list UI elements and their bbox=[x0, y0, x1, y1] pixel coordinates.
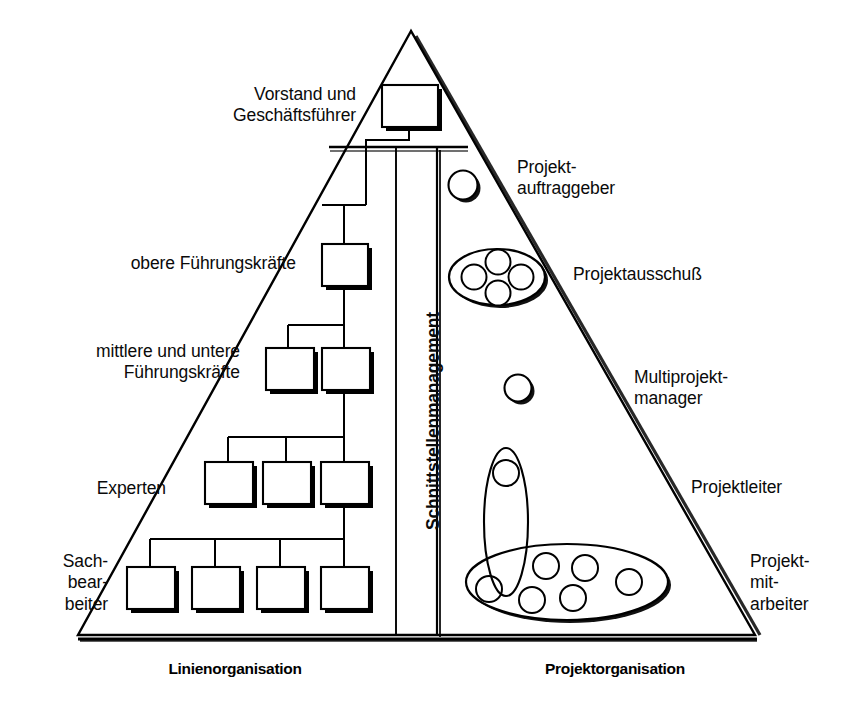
footer-projektorganisation: Projektorganisation bbox=[490, 660, 740, 678]
label-projektleiter: Projektleiter bbox=[691, 477, 842, 498]
org-box-experten-1 bbox=[205, 462, 257, 508]
footer-linienorganisation: Linienorganisation bbox=[110, 660, 360, 678]
label-experten: Experten bbox=[6, 478, 166, 499]
shape-projektausschuss bbox=[449, 249, 548, 308]
org-box-experten-3 bbox=[321, 462, 373, 508]
diagram-canvas: Vorstand und Geschäftsführer obere Führu… bbox=[0, 0, 842, 703]
top-divider bbox=[329, 147, 468, 151]
label-schnittstellenmanagement: Schnittstellenmanagement bbox=[423, 312, 444, 530]
org-box-sachbearbeiter-4 bbox=[321, 567, 373, 613]
org-box-experten-2 bbox=[263, 462, 315, 508]
label-multiprojektmanager: Multiprojekt- manager bbox=[634, 367, 834, 410]
shape-projektmitarbeiter bbox=[466, 544, 671, 623]
org-box-mittlere-1 bbox=[266, 348, 318, 394]
label-projektauftraggeber: Projekt- auftraggeber bbox=[517, 157, 757, 200]
label-obere-fuehrungskraefte: obere Führungskräfte bbox=[30, 253, 296, 274]
shape-projektauftraggeber bbox=[449, 171, 481, 203]
label-mittlere-untere-fuehrungskraefte: mittlere und untere Führungskräfte bbox=[22, 341, 240, 384]
org-box-sachbearbeiter-3 bbox=[257, 567, 309, 613]
label-projektmitarbeiter: Projekt- mit- arbeiter bbox=[750, 551, 842, 615]
label-sachbearbeiter: Sach- bear- beiter bbox=[0, 551, 108, 615]
label-projektausschuss: Projektausschuß bbox=[573, 264, 823, 285]
org-box-obere-1 bbox=[322, 244, 372, 290]
org-box-sachbearbeiter-1 bbox=[127, 567, 179, 613]
shape-multiprojektmanager bbox=[505, 375, 535, 405]
org-box-sachbearbeiter-2 bbox=[192, 567, 244, 613]
org-box-vorstand bbox=[382, 85, 442, 131]
org-box-mittlere-2 bbox=[322, 348, 374, 394]
label-vorstand: Vorstand und Geschäftsführer bbox=[140, 84, 356, 127]
